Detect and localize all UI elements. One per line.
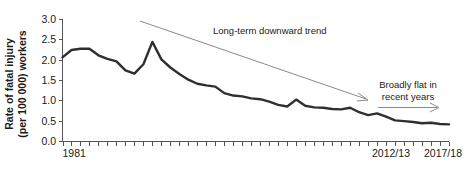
y-axis (59, 19, 63, 142)
y-tick-label-2: 2.0 (41, 54, 56, 66)
y-tick-label-05: 0.5 (41, 115, 56, 127)
y-axis-title-line1: Rate of fatal injury (3, 38, 15, 130)
y-tick-label-25: 2.5 (41, 33, 56, 45)
y-axis-tick-labels: 3.0 2.5 2.0 1.5 1.0 0.5 0.0 (41, 13, 56, 147)
fatal-injury-rate-chart: Rate of fatal injury (per 100 000) worke… (0, 0, 472, 179)
y-axis-title-line2: (per 100 000) workers (16, 30, 28, 138)
recent-flat-label-line1: Broadly flat in (379, 79, 437, 90)
chart-canvas: Rate of fatal injury (per 100 000) worke… (0, 0, 472, 179)
y-tick-label-1: 1.0 (41, 94, 56, 106)
annotation-recent-flat: Broadly flat in recent years (378, 79, 439, 112)
y-axis-title: Rate of fatal injury (per 100 000) worke… (3, 30, 28, 138)
y-tick-label-3: 3.0 (41, 13, 56, 25)
long-term-trend-arrow-head (357, 93, 368, 101)
x-axis-tick-marks (64, 142, 450, 146)
x-tick-label-201718: 2017/18 (424, 147, 462, 159)
x-tick-label-start: 1981 (63, 147, 87, 159)
long-term-trend-label: Long-term downward trend (213, 25, 327, 36)
y-tick-label-0: 0.0 (41, 135, 56, 147)
y-tick-label-15: 1.5 (41, 74, 56, 86)
annotation-long-term-trend: Long-term downward trend (140, 21, 368, 101)
recent-flat-label-line2: recent years (382, 91, 435, 102)
x-axis (63, 142, 450, 146)
x-tick-label-201213: 2012/13 (372, 147, 410, 159)
x-axis-tick-labels: 1981 2012/13 2017/18 (63, 147, 463, 159)
